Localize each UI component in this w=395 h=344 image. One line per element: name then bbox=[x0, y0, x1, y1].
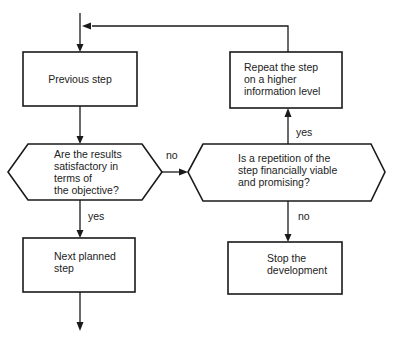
decision1-line-4: the objective? bbox=[54, 184, 119, 196]
repetition-no-label: no bbox=[298, 210, 310, 222]
decision1-line-2: satisfactory in bbox=[54, 160, 118, 172]
results-no-label: no bbox=[166, 149, 178, 161]
decision2-line-3: and promising? bbox=[238, 176, 310, 188]
repeat-step-node: Repeat the step on a higher information … bbox=[230, 52, 342, 108]
repeat-loop-connector bbox=[92, 26, 288, 52]
decision1-line-3: terms of bbox=[54, 172, 92, 184]
entry-arrowhead-icon bbox=[77, 44, 84, 52]
next-step-line-1: Next planned bbox=[54, 250, 116, 262]
repetition-viable-decision: Is a repetition of the step financially … bbox=[188, 144, 385, 201]
next-step-line-2: step bbox=[54, 262, 74, 274]
results-yes-label: yes bbox=[88, 210, 104, 222]
previous-step-label: Previous step bbox=[48, 73, 112, 85]
decision2-line-2: step financially viable bbox=[238, 164, 337, 176]
exit-arrowhead-icon bbox=[77, 322, 84, 331]
stop-line-1: Stop the bbox=[267, 252, 306, 264]
repeat-line-2: on a higher bbox=[244, 73, 297, 85]
previous-to-decision-arrowhead-icon bbox=[77, 136, 84, 144]
repetition-no-arrowhead-icon bbox=[285, 234, 292, 242]
decision1-line-1: Are the results bbox=[54, 148, 122, 160]
repeat-line-3: information level bbox=[244, 85, 320, 97]
previous-step-node: Previous step bbox=[23, 52, 137, 106]
decision2-line-1: Is a repetition of the bbox=[238, 152, 330, 164]
flowchart-canvas: Previous step Are the results satisfacto… bbox=[0, 0, 395, 344]
results-yes-arrowhead-icon bbox=[77, 230, 84, 238]
next-planned-step-node: Next planned step bbox=[23, 238, 135, 292]
stop-development-node: Stop the development bbox=[228, 242, 342, 294]
repeat-loop-arrowhead-icon bbox=[82, 23, 91, 30]
results-no-arrowhead-icon bbox=[179, 169, 188, 176]
repetition-yes-label: yes bbox=[296, 126, 312, 138]
results-satisfactory-decision: Are the results satisfactory in terms of… bbox=[8, 144, 162, 200]
repetition-yes-arrowhead-icon bbox=[285, 108, 292, 117]
stop-line-2: development bbox=[267, 264, 327, 276]
repeat-line-1: Repeat the step bbox=[244, 61, 318, 73]
